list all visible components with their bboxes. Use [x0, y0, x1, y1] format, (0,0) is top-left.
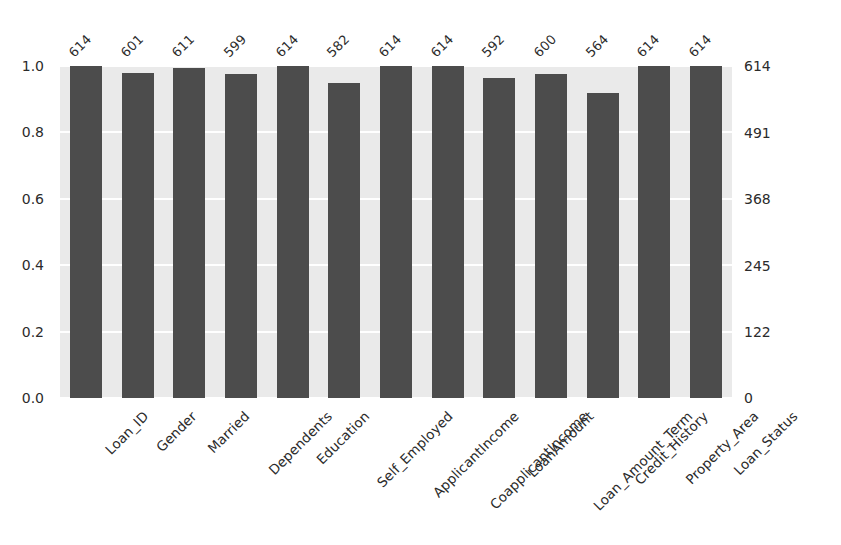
- bar[interactable]: [122, 73, 154, 398]
- left-axis-tick: 0.4: [22, 257, 44, 273]
- right-axis-tick: 614: [744, 58, 771, 74]
- right-axis-tick: 122: [744, 324, 771, 340]
- left-axis-tick: 0.2: [22, 324, 44, 340]
- bar-slot: [422, 66, 474, 398]
- bars-layer: [60, 66, 732, 398]
- x-axis-tick-label: Gender: [152, 408, 199, 455]
- bar[interactable]: [225, 74, 257, 398]
- bar-slot: [163, 66, 215, 398]
- bar-slot: [215, 66, 267, 398]
- bar-value-label: 614: [376, 31, 405, 60]
- right-y-axis: 0122245368491614: [744, 66, 814, 398]
- left-axis-tick: 1.0: [22, 58, 44, 74]
- bar-value-label: 614: [272, 31, 301, 60]
- bar[interactable]: [638, 66, 670, 398]
- bar-value-label: 611: [169, 31, 198, 60]
- right-axis-tick: 245: [744, 258, 771, 274]
- bar-value-label: 592: [479, 31, 508, 60]
- left-axis-tick: 0.0: [22, 390, 44, 406]
- bar-value-label: 614: [634, 31, 663, 60]
- left-y-axis: 0.00.20.40.60.81.0: [0, 66, 52, 398]
- bar-value-label: 614: [66, 31, 95, 60]
- bar[interactable]: [535, 74, 567, 398]
- bar-slot: [112, 66, 164, 398]
- plot-area: [60, 66, 732, 398]
- right-axis-tick: 491: [744, 125, 771, 141]
- bar-value-label: 614: [686, 31, 715, 60]
- x-axis-tick-label: Loan_ID: [102, 408, 152, 458]
- bar-slot: [267, 66, 319, 398]
- bar-value-label: 600: [531, 31, 560, 60]
- bar-value-label: 582: [324, 31, 353, 60]
- bar[interactable]: [690, 66, 722, 398]
- bar[interactable]: [587, 93, 619, 398]
- bar[interactable]: [432, 66, 464, 398]
- bar-slot: [318, 66, 370, 398]
- bar-slot: [525, 66, 577, 398]
- bar-value-label: 601: [117, 31, 146, 60]
- bar-slot: [680, 66, 732, 398]
- bar-slot: [629, 66, 681, 398]
- bar-value-label: 614: [427, 31, 456, 60]
- bar-slot: [474, 66, 526, 398]
- x-axis-tick-label: LoanAmount: [525, 408, 597, 480]
- bar-value-label: 564: [582, 31, 611, 60]
- bar-slot: [60, 66, 112, 398]
- bar-chart-figure: 614601611599614582614614592600564614614 …: [0, 0, 841, 545]
- left-axis-tick: 0.8: [22, 124, 44, 140]
- bar[interactable]: [328, 83, 360, 398]
- bar[interactable]: [70, 66, 102, 398]
- bar[interactable]: [380, 66, 412, 398]
- right-axis-tick: 368: [744, 191, 771, 207]
- left-axis-tick: 0.6: [22, 191, 44, 207]
- bar[interactable]: [483, 78, 515, 398]
- bar-value-label: 599: [221, 31, 250, 60]
- x-axis-tick-label: Married: [204, 408, 252, 456]
- x-axis-tick-label: Loan_Amount_Term: [590, 408, 696, 514]
- bar[interactable]: [173, 68, 205, 398]
- bar-slot: [370, 66, 422, 398]
- right-axis-tick: 0: [744, 390, 753, 406]
- bar[interactable]: [277, 66, 309, 398]
- bar-slot: [577, 66, 629, 398]
